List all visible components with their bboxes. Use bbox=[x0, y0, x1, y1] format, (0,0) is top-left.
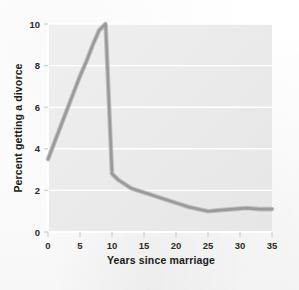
xtick-label-15: 15 bbox=[139, 240, 150, 251]
xtick-label-30: 30 bbox=[235, 240, 246, 251]
ytick-label-6: 6 bbox=[35, 102, 40, 113]
y-axis-title: Percent getting a divorce bbox=[12, 63, 24, 192]
ytick-label-8: 8 bbox=[35, 60, 40, 71]
chart-figure: 0 2 4 6 8 10 0 5 10 15 20 25 30 35 Years… bbox=[0, 0, 299, 290]
x-axis-title: Years since marriage bbox=[107, 254, 215, 266]
xtick-label-20: 20 bbox=[171, 240, 182, 251]
x-axis-tick-labels: 0 5 10 15 20 25 30 35 bbox=[45, 240, 278, 251]
xtick-label-5: 5 bbox=[77, 240, 83, 251]
ytick-label-4: 4 bbox=[35, 143, 41, 154]
xtick-label-0: 0 bbox=[45, 240, 50, 251]
ytick-label-2: 2 bbox=[35, 185, 40, 196]
chart-canvas: 0 2 4 6 8 10 0 5 10 15 20 25 30 35 Years… bbox=[0, 0, 299, 290]
ytick-label-10: 10 bbox=[29, 19, 40, 30]
xtick-label-25: 25 bbox=[203, 240, 214, 251]
xtick-label-35: 35 bbox=[267, 240, 278, 251]
y-axis-tick-labels: 0 2 4 6 8 10 bbox=[29, 19, 40, 238]
xtick-label-10: 10 bbox=[107, 240, 118, 251]
ytick-label-0: 0 bbox=[35, 227, 40, 238]
plot-area-background bbox=[48, 24, 272, 232]
